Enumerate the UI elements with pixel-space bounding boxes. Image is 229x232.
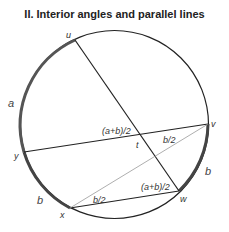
angle-label-t: (a+b)/2 [102, 126, 131, 136]
point-label-v: v [211, 119, 216, 129]
arc-a [20, 40, 75, 152]
arc-b-left [24, 152, 70, 208]
point-label-t: t [136, 140, 139, 150]
point-label-x: x [59, 210, 65, 220]
arc-label-a: a [8, 97, 14, 109]
point-label-w: w [180, 194, 187, 204]
arc-label-b-left: b [37, 194, 43, 206]
point-label-u: u [66, 30, 71, 40]
angle-label-w: (a+b)/2 [141, 182, 170, 192]
chord-uw [75, 40, 179, 191]
chord-xv [70, 124, 208, 208]
circle-diagram: u v w x y t a b b (a+b)/2 b/2 (a+b)/2 b/… [0, 0, 229, 232]
arc-label-b-right: b [205, 165, 211, 177]
point-label-y: y [13, 151, 19, 161]
angle-label-v: b/2 [163, 135, 176, 145]
arc-b-right [179, 124, 208, 191]
angle-label-x: b/2 [93, 195, 106, 205]
